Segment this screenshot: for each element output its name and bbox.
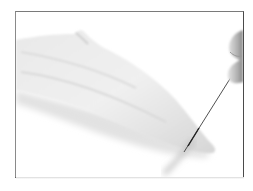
photo-frame xyxy=(15,11,244,178)
photo xyxy=(16,12,243,177)
frame-shadow xyxy=(16,177,244,179)
